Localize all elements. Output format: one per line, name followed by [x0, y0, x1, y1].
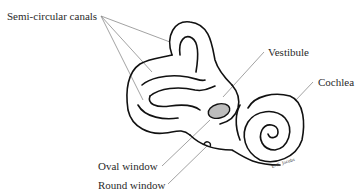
label-round-window: Round window — [98, 180, 166, 191]
cochlea-drawing — [236, 94, 303, 161]
label-cochlea: Cochlea — [318, 77, 354, 88]
inner-ear-diagram: E. K. Jacobs — [0, 0, 362, 195]
label-semicircular-canals: Semi-circular canals — [7, 11, 97, 22]
leader-lines — [101, 16, 313, 184]
oval-window-shape — [207, 101, 232, 120]
label-vestibule: Vestibule — [268, 47, 309, 58]
label-oval-window: Oval window — [98, 161, 158, 172]
